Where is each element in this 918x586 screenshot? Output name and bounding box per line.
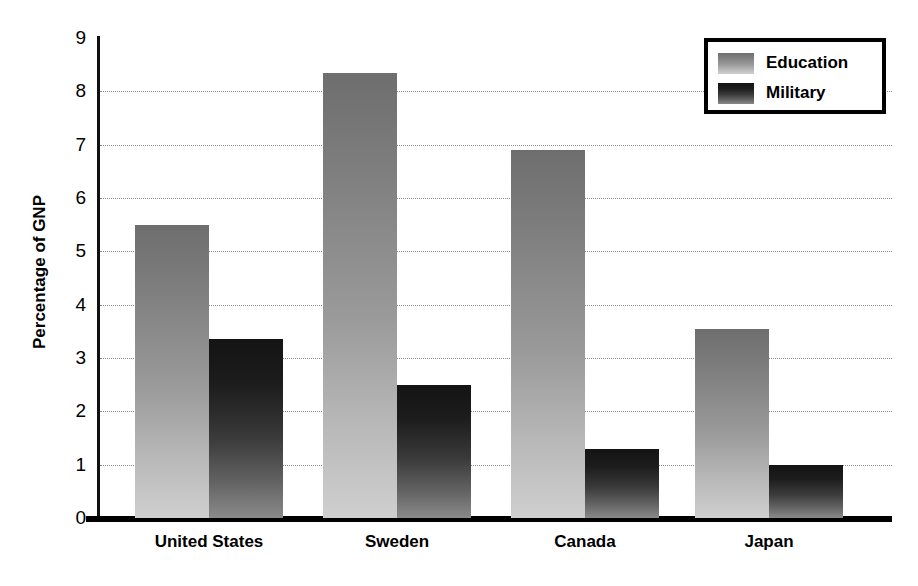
education-swatch-icon — [718, 53, 754, 74]
legend-entry-education: Education — [718, 48, 882, 78]
legend-entry-military: Military — [718, 78, 882, 108]
bar-sweden-military — [397, 385, 471, 518]
bar-united-states-military — [209, 339, 283, 518]
legend-label-military: Military — [766, 83, 826, 103]
bar-chart-figure: Percentage of GNP 0123456789 United Stat… — [0, 0, 918, 586]
category-label-canada: Canada — [491, 532, 679, 552]
legend-label-education: Education — [766, 53, 848, 73]
bar-japan-education — [695, 329, 769, 518]
legend: Education Military — [704, 38, 886, 114]
category-label-japan: Japan — [675, 532, 863, 552]
category-label-united-states: United States — [115, 532, 303, 552]
bar-canada-military — [585, 449, 659, 518]
bar-japan-military — [769, 465, 843, 518]
bar-united-states-education — [135, 225, 209, 518]
bar-canada-education — [511, 150, 585, 518]
military-swatch-icon — [718, 83, 754, 104]
bar-sweden-education — [323, 73, 397, 518]
category-label-sweden: Sweden — [303, 532, 491, 552]
